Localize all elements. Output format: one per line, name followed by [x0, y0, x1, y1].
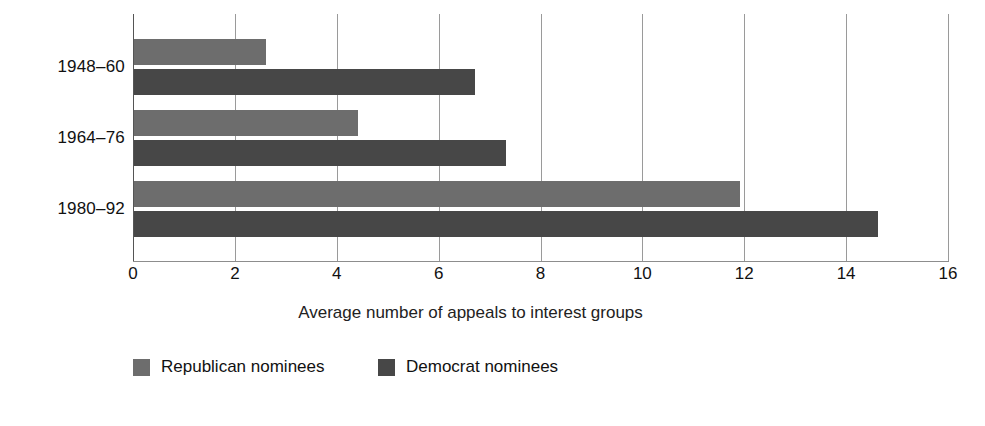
gridline-16 — [948, 14, 949, 262]
legend-label: Republican nominees — [161, 357, 325, 377]
bar-1964-76-democrat — [134, 140, 506, 166]
category-axis-labels: 1948–601964–761980–92 — [0, 14, 125, 262]
x-tick-label-12: 12 — [735, 264, 754, 284]
legend-item-republican: Republican nominees — [133, 357, 325, 377]
legend-swatch-republican-icon — [133, 359, 150, 376]
bar-1964-76-republican — [134, 110, 358, 136]
category-label-1964-76: 1964–76 — [5, 128, 125, 148]
category-label-1948-60: 1948–60 — [5, 57, 125, 77]
x-tick-label-6: 6 — [434, 264, 443, 284]
x-tick-label-0: 0 — [128, 264, 137, 284]
x-tick-label-10: 10 — [633, 264, 652, 284]
bar-1980-92-democrat — [134, 211, 878, 237]
legend-item-democrat: Democrat nominees — [378, 357, 558, 377]
x-axis-tick-labels: 0246810121416 — [133, 264, 949, 290]
x-tick-label-4: 4 — [332, 264, 341, 284]
x-axis-title: Average number of appeals to interest gr… — [0, 303, 985, 323]
category-label-1980-92: 1980–92 — [5, 199, 125, 219]
bar-1948-60-republican — [134, 39, 266, 65]
legend-swatch-democrat-icon — [378, 359, 395, 376]
x-tick-label-8: 8 — [536, 264, 545, 284]
bar-chart-figure: l 1948–601964–761980–92 0246810121416 Av… — [0, 0, 985, 426]
x-tick-label-2: 2 — [230, 264, 239, 284]
x-axis-title-text: Average number of appeals to interest gr… — [298, 303, 643, 323]
x-axis-baseline — [133, 261, 949, 262]
x-tick-label-16: 16 — [939, 264, 958, 284]
plot-area — [133, 14, 948, 262]
bar-1948-60-democrat — [134, 69, 475, 95]
bar-1980-92-republican — [134, 181, 740, 207]
legend-label: Democrat nominees — [406, 357, 558, 377]
x-tick-label-14: 14 — [837, 264, 856, 284]
